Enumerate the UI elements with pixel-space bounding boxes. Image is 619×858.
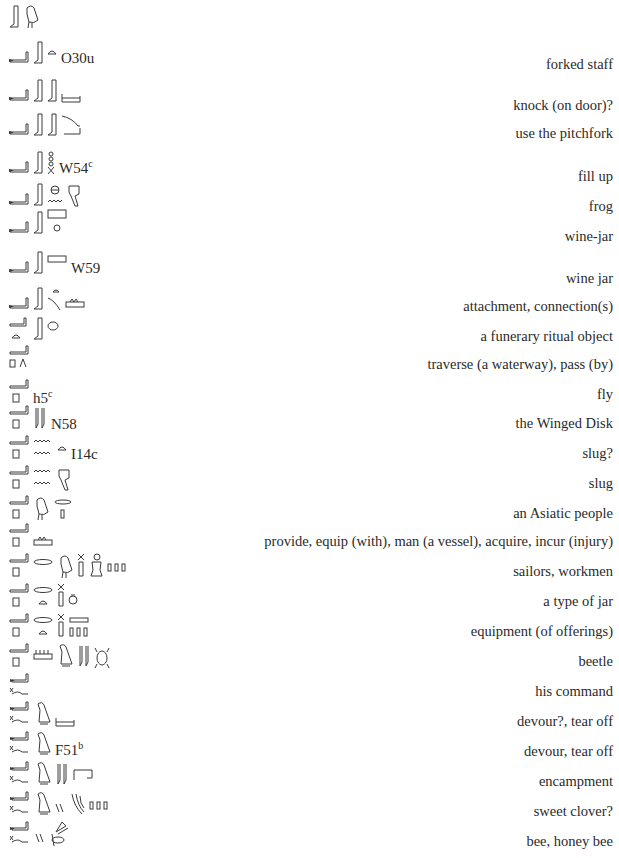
arm-snake-icon bbox=[8, 672, 32, 700]
hieroglyph-sequence bbox=[8, 700, 76, 728]
english-gloss: an Asiatic people bbox=[513, 505, 613, 521]
gardiner-code-variant: c bbox=[88, 158, 92, 169]
rope-icon bbox=[46, 148, 56, 176]
english-gloss: slug bbox=[589, 475, 613, 491]
hieroglyph-sequence bbox=[8, 344, 34, 372]
arm-square-icon bbox=[8, 404, 30, 432]
dictionary-entry bbox=[0, 180, 619, 208]
hieroglyph-sequence: F51b bbox=[8, 730, 83, 758]
dictionary-entry bbox=[0, 760, 619, 788]
english-gloss: equipment (of offerings) bbox=[471, 623, 613, 639]
hieroglyph-sequence: W59 bbox=[8, 248, 100, 276]
water2-icon bbox=[32, 464, 54, 492]
leg-icon bbox=[46, 76, 58, 104]
leg-icon bbox=[32, 248, 44, 276]
rect-icon bbox=[46, 248, 68, 276]
arm-square-icon bbox=[8, 464, 30, 492]
arm-snake-icon bbox=[8, 760, 32, 788]
plant-icon bbox=[68, 790, 86, 818]
arm-icon bbox=[8, 248, 30, 276]
leg-icon bbox=[32, 314, 44, 342]
basin-plural-icon bbox=[68, 612, 90, 640]
gardiner-code: W59 bbox=[71, 261, 100, 276]
enclosure-icon bbox=[72, 760, 94, 788]
mouth-icon bbox=[32, 552, 54, 580]
leg-icon bbox=[32, 38, 44, 66]
english-gloss: fly bbox=[597, 386, 613, 402]
arm-snake-icon bbox=[8, 790, 32, 818]
hieroglyph-sequence bbox=[8, 314, 60, 342]
arm-bread-icon bbox=[8, 314, 30, 342]
english-gloss: sailors, workmen bbox=[513, 563, 613, 579]
english-gloss: devour, tear off bbox=[524, 743, 613, 759]
pot-icon bbox=[68, 582, 78, 610]
water2-icon bbox=[32, 434, 54, 462]
bread-rope-icon bbox=[46, 284, 62, 312]
leg-icon bbox=[32, 76, 44, 104]
mouth-bread-icon bbox=[32, 612, 54, 640]
hieroglyph-sequence: I14c bbox=[8, 434, 98, 462]
dual-icon bbox=[54, 790, 66, 818]
dual-icon bbox=[34, 820, 46, 848]
gardiner-code: I14c bbox=[71, 447, 98, 462]
dictionary-entry bbox=[0, 642, 619, 670]
plural-icon bbox=[88, 790, 110, 818]
hieroglyph-sequence bbox=[8, 208, 68, 236]
jug-icon bbox=[76, 552, 86, 580]
english-gloss: a type of jar bbox=[543, 593, 613, 609]
hieroglyph-sequence bbox=[8, 672, 32, 700]
bird-icon bbox=[56, 552, 74, 580]
hieroglyph-sequence bbox=[8, 110, 82, 138]
english-gloss: forked staff bbox=[546, 56, 613, 72]
english-gloss: devour?, tear off bbox=[517, 713, 613, 729]
hieroglyph-sequence bbox=[8, 464, 72, 492]
leg-icon bbox=[32, 148, 44, 176]
arm-icon bbox=[8, 110, 30, 138]
arm-icon bbox=[8, 180, 30, 208]
arm-snake-icon bbox=[8, 820, 32, 848]
arm-square-icon bbox=[8, 552, 30, 580]
english-gloss: sweet clover? bbox=[534, 803, 613, 819]
hieroglyph-sequence: N58 bbox=[8, 404, 77, 432]
bread-icon bbox=[56, 434, 68, 462]
vulture-icon bbox=[34, 700, 52, 728]
arm-square-icon bbox=[8, 378, 30, 406]
arm-square-icon bbox=[8, 612, 30, 640]
arm-snake-icon bbox=[8, 700, 32, 728]
hieroglyph-sequence bbox=[8, 76, 82, 104]
gardiner-code: O30u bbox=[61, 51, 94, 66]
leg-icon bbox=[32, 208, 44, 236]
english-gloss: beetle bbox=[578, 653, 613, 669]
dictionary-entry: O30u bbox=[0, 38, 619, 66]
gardiner-code: h5c bbox=[33, 386, 52, 406]
english-gloss: encampment bbox=[539, 773, 613, 789]
beetle-icon bbox=[94, 642, 110, 670]
leg-icon bbox=[32, 180, 44, 208]
hieroglyph-sequence: h5c bbox=[8, 378, 52, 406]
english-gloss: bee, honey bee bbox=[526, 833, 613, 849]
hieroglyph-sequence bbox=[8, 552, 128, 580]
arm-icon bbox=[8, 148, 30, 176]
oval-icon bbox=[46, 314, 60, 342]
leg-icon bbox=[32, 284, 44, 312]
arm-square-icon bbox=[8, 494, 30, 522]
bird-icon bbox=[22, 2, 40, 30]
dictionary-entry: I14c bbox=[0, 434, 619, 462]
hieroglyph-sequence bbox=[8, 790, 110, 818]
hieroglyph-sequence bbox=[8, 642, 110, 670]
bolt-icon bbox=[54, 700, 76, 728]
vulture-icon bbox=[34, 730, 52, 758]
jar-stand-icon bbox=[46, 208, 68, 236]
reeds-icon bbox=[54, 760, 70, 788]
hieroglyph-sequence: O30u bbox=[8, 38, 94, 66]
mouth-stroke-icon bbox=[52, 494, 74, 522]
leg-icon bbox=[46, 110, 58, 138]
dictionary-entry bbox=[0, 464, 619, 492]
arm-square-icon bbox=[8, 642, 30, 670]
reeds-icon bbox=[76, 642, 92, 670]
basin-icon bbox=[32, 522, 54, 550]
mouth-bread-icon bbox=[32, 582, 54, 610]
vulture-icon bbox=[56, 642, 74, 670]
english-gloss: provide, equip (with), man (a vessel), a… bbox=[264, 533, 613, 549]
gardiner-code: N58 bbox=[51, 417, 77, 432]
